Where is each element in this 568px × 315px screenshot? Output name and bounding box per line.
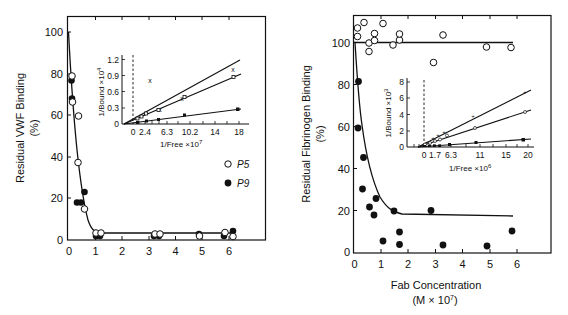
left-xtick-2: 2 <box>119 245 125 257</box>
left-inset-ytick-0-3: 0.3 <box>107 103 119 113</box>
left-xtick-5: 5 <box>199 245 205 257</box>
right-xtick-3: 3 <box>432 258 438 270</box>
left-xtick-0: 0 <box>66 245 72 257</box>
right-x-axis-unit: (M × 107) <box>412 294 457 306</box>
left-inset-ytick-1-2: 1.2 <box>107 55 119 65</box>
left-inset-ytick-0-6: 0.6 <box>107 87 119 97</box>
right-ytick-60: 60 <box>338 121 350 133</box>
right-inset-xtick-0: 0 <box>422 150 427 160</box>
left-y-axis-label: Residual VWF Binding <box>14 73 26 183</box>
right-inset-xtick-15: 15 <box>501 150 511 160</box>
left-fit-curve <box>69 32 235 233</box>
right-inset: 0 2 4 6 8 0 1.7 6.3 11 15 20 1/Free ×106… <box>383 77 534 173</box>
left-legend: P5 P9 <box>225 159 250 189</box>
right-inset-ytick-2: 2 <box>399 126 404 136</box>
left-inset-xtick-6-3: 6.3 <box>161 127 173 137</box>
right-xtick-0: 0 <box>351 258 357 270</box>
legend-open-circle-icon <box>225 161 231 167</box>
svg-text:+: + <box>436 132 440 138</box>
left-inset-ytick-0: 0 <box>114 119 119 129</box>
right-xtick-5: 5 <box>487 258 493 270</box>
right-ytick-100: 100 <box>332 37 350 49</box>
left-inset-y-label: 1/Bound ×104 <box>96 67 106 117</box>
left-inset-xtick-18: 18 <box>234 127 244 137</box>
right-fit-curve-filled <box>355 43 514 217</box>
left-xtick-1: 1 <box>92 245 98 257</box>
right-inset-xtick-6-3: 6.3 <box>445 150 457 160</box>
right-panel: 0 20 40 60 80 100 0 1 2 3 4 5 6 Fab Conc… <box>300 16 551 307</box>
left-inset-cross-markers: x x x x <box>148 66 235 113</box>
right-ytick-0: 0 <box>344 246 350 258</box>
left-ytick-100: 100 <box>45 26 63 38</box>
right-y-axis-unit: (%) <box>314 125 326 142</box>
right-ytick-40: 40 <box>338 163 350 175</box>
right-y-axis-label: Residual Fibrinogen Binding <box>300 65 312 203</box>
right-inset-xtick-20: 20 <box>523 150 533 160</box>
right-ytick-20: 20 <box>338 205 350 217</box>
left-series-p9 <box>68 77 236 239</box>
left-inset-xtick-2-4: 2.4 <box>139 127 151 137</box>
right-inset-xtick-11: 11 <box>476 150 485 160</box>
right-series-filled <box>355 78 516 249</box>
left-ytick-80: 80 <box>51 68 63 80</box>
svg-text:+: + <box>523 89 527 95</box>
right-inset-xtick-1-7: 1.7 <box>429 150 441 160</box>
left-xtick-3: 3 <box>146 245 152 257</box>
left-ytick-40: 40 <box>51 151 63 163</box>
right-xtick-4: 4 <box>459 258 465 270</box>
left-xtick-6: 6 <box>226 245 232 257</box>
svg-text:+: + <box>471 113 475 119</box>
right-ytick-80: 80 <box>338 79 350 91</box>
right-inset-ytick-8: 8 <box>399 77 404 87</box>
svg-text:+: + <box>442 129 446 135</box>
right-bottom-ticks <box>381 249 517 253</box>
legend-p5-label: P5 <box>237 159 250 170</box>
right-xtick-6: 6 <box>514 258 520 270</box>
left-inset-x-label: 1/Free ×107 <box>160 139 203 149</box>
right-inset-y-label: 1/Bound ×103 <box>383 88 393 138</box>
left-ytick-60: 60 <box>51 109 63 121</box>
right-inset-ytick-4: 4 <box>399 110 404 120</box>
right-x-axis-label: Fab Concentration <box>391 279 482 291</box>
left-inset: 0 0.3 0.6 0.9 1.2 0 2.4 6.3 10.2 14 18 1… <box>96 55 249 149</box>
left-inset-xtick-0: 0 <box>131 127 136 137</box>
right-inset-ytick-6: 6 <box>399 93 404 103</box>
left-inset-xtick-14: 14 <box>210 127 220 137</box>
left-inset-xtick-10-2: 10.2 <box>182 127 199 137</box>
right-xtick-2: 2 <box>405 258 411 270</box>
left-ytick-0: 0 <box>57 234 63 246</box>
right-inset-ytick-0: 0 <box>399 142 404 152</box>
left-ytick-20: 20 <box>51 192 63 204</box>
svg-text:x: x <box>148 77 152 84</box>
figure: 0 20 40 60 80 100 0 1 2 3 4 5 6 Residual… <box>0 0 568 315</box>
left-inset-ytick-0-9: 0.9 <box>107 71 119 81</box>
legend-filled-circle-icon <box>225 180 232 187</box>
left-inset-line-cross <box>124 60 240 124</box>
left-xtick-4: 4 <box>172 245 178 257</box>
legend-p9-label: P9 <box>237 178 250 189</box>
left-panel: 0 20 40 60 80 100 0 1 2 3 4 5 6 Residual… <box>14 17 266 258</box>
right-inset-x-label: 1/Free ×106 <box>449 163 492 173</box>
svg-text:x: x <box>231 66 235 73</box>
right-xtick-1: 1 <box>378 258 384 270</box>
left-series-p5 <box>69 73 237 240</box>
left-y-axis-unit: (%) <box>28 119 40 136</box>
